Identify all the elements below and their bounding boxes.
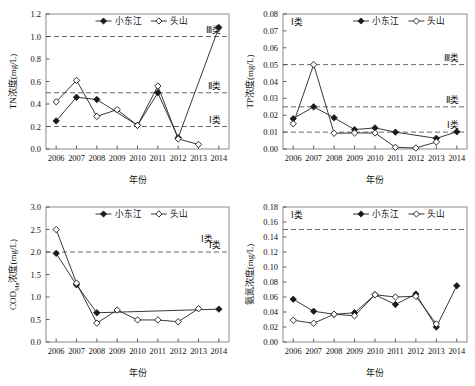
y-tick-label: 0.12 <box>263 248 278 257</box>
x-axis-title: 年份 <box>366 367 384 378</box>
y-tick-label: 2.5 <box>31 226 41 235</box>
x-tick-label: 2006 <box>48 154 65 163</box>
x-tick-label: 2013 <box>428 154 445 163</box>
chart-panel-cod: 0.00.51.01.52.02.53.02006200720082009201… <box>0 193 237 386</box>
x-tick-label: 2009 <box>109 347 126 356</box>
y-tick-label: 1.5 <box>31 271 41 280</box>
figure-container: 0.00.20.40.60.81.01.22006200720082009201… <box>0 0 475 386</box>
x-tick-label: 2014 <box>210 154 228 163</box>
x-tick-label: 2008 <box>88 154 105 163</box>
y-tick-label: 0.16 <box>263 218 278 227</box>
legend-label: 头山 <box>170 16 188 26</box>
legend: 小东江头山 <box>96 208 188 219</box>
data-point <box>310 320 316 326</box>
data-point <box>392 294 398 300</box>
data-point <box>53 226 59 232</box>
x-axis-title: 年份 <box>129 367 147 378</box>
x-tick-label: 2013 <box>190 347 207 356</box>
data-point <box>331 130 337 136</box>
data-point <box>94 320 100 326</box>
y-tick-label: 0.01 <box>263 128 278 137</box>
data-point <box>310 104 316 110</box>
x-tick-label: 2009 <box>109 154 126 163</box>
chart-tp: 0.000.010.020.030.040.050.060.070.082006… <box>237 0 475 193</box>
y-tick-label: 0.06 <box>263 293 278 302</box>
data-point <box>454 283 460 289</box>
y-tick-label: 0.10 <box>263 263 278 272</box>
y-tick-label: 0.02 <box>263 323 278 332</box>
y-tick-label: 0.4 <box>31 100 42 109</box>
chart-panel-tn: 0.00.20.40.60.81.01.22006200720082009201… <box>0 0 237 193</box>
x-tick-label: 2009 <box>346 347 363 356</box>
y-tick-label: 0.08 <box>263 10 278 19</box>
y-axis-title: 氨氮浓度(mg/L) <box>244 244 255 306</box>
series-line-xiaodongjiang <box>56 253 219 312</box>
x-tick-label: 2010 <box>129 347 146 356</box>
legend-label: 头山 <box>427 209 445 219</box>
x-axis-title: 年份 <box>366 174 384 185</box>
chart-tn: 0.00.20.40.60.81.01.22006200720082009201… <box>0 0 237 193</box>
legend-marker-open-diamond <box>156 211 162 217</box>
x-axis-title: 年份 <box>129 174 147 185</box>
y-tick-label: 0.2 <box>31 123 41 132</box>
legend-label: 小东江 <box>372 15 399 26</box>
y-tick-label: 0.05 <box>263 61 278 70</box>
data-point <box>331 311 337 317</box>
y-tick-label: 0.18 <box>263 203 278 212</box>
y-tick-label: 1.0 <box>31 293 41 302</box>
x-tick-label: 2011 <box>150 154 166 163</box>
y-tick-label: 0.6 <box>31 78 41 87</box>
x-tick-label: 2006 <box>285 347 302 356</box>
x-tick-label: 2008 <box>326 347 343 356</box>
data-point <box>372 130 378 136</box>
y-axis-title-text: CODMn浓度(mg/L) <box>7 239 19 310</box>
legend: 小东江头山 <box>96 15 188 26</box>
data-point <box>195 306 201 312</box>
data-point <box>310 308 316 314</box>
x-tick-label: 2009 <box>346 154 363 163</box>
y-tick-label: 0.00 <box>263 145 278 154</box>
x-tick-label: 2006 <box>285 154 302 163</box>
y-tick-label: 0.02 <box>263 111 278 120</box>
y-tick-label: 2.0 <box>31 248 41 257</box>
y-tick-label: 0.8 <box>31 55 41 64</box>
data-point <box>290 296 296 302</box>
legend-label: 头山 <box>170 209 188 219</box>
y-axis-title: CODMn浓度(mg/L) <box>7 239 19 310</box>
x-tick-label: 2013 <box>428 347 445 356</box>
x-tick-label: 2011 <box>387 154 403 163</box>
data-point <box>134 317 140 323</box>
y-axis-title-text: TP浓度(mg/L) <box>244 55 255 109</box>
y-axis-title-text: 氨氮浓度(mg/L) <box>244 244 255 306</box>
data-point <box>155 83 161 89</box>
x-tick-label: 2007 <box>305 154 322 163</box>
legend-label: 小东江 <box>372 208 399 219</box>
corner-class-label: Ⅰ类 <box>291 209 303 220</box>
x-tick-label: 2007 <box>305 347 322 356</box>
legend-label: 小东江 <box>115 208 142 219</box>
data-point <box>94 310 100 316</box>
data-point <box>94 96 100 102</box>
y-tick-label: 0.07 <box>263 27 278 36</box>
x-tick-label: 2014 <box>448 347 466 356</box>
data-point <box>155 317 161 323</box>
y-tick-label: 0.0 <box>31 145 41 154</box>
x-tick-label: 2007 <box>68 347 85 356</box>
y-tick-label: 0.04 <box>263 308 278 317</box>
y-axis-title: TN浓度(mg/L) <box>7 54 18 110</box>
data-point <box>175 319 181 325</box>
x-tick-label: 2010 <box>129 154 146 163</box>
y-tick-label: 0.00 <box>263 338 278 347</box>
data-point <box>195 141 201 147</box>
threshold-label: Ⅱ类 <box>446 94 459 105</box>
chart-panel-nh3n: 0.000.020.040.060.080.100.120.140.160.18… <box>237 193 475 386</box>
data-point <box>53 250 59 256</box>
data-point <box>413 145 419 151</box>
x-tick-label: 2010 <box>367 154 384 163</box>
legend: 小东江头山 <box>353 15 445 26</box>
x-tick-label: 2013 <box>190 154 207 163</box>
data-point <box>94 113 100 119</box>
series-line-xiaodongjiang <box>56 28 219 138</box>
legend-marker-open-diamond <box>156 18 162 24</box>
y-tick-label: 0.5 <box>31 316 41 325</box>
